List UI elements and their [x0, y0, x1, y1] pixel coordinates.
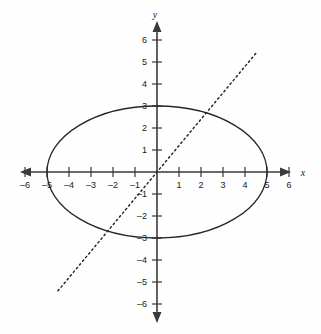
- y-axis-label: y: [152, 9, 158, 20]
- y-tick-label: 4: [142, 79, 147, 89]
- y-tick-label: –2: [137, 211, 147, 221]
- y-axis-bottom-arrow-icon: [153, 312, 162, 323]
- y-tick-label: –4: [137, 255, 147, 265]
- x-tick-label: 1: [176, 180, 181, 190]
- x-axis-label: x: [300, 167, 306, 178]
- x-tick-label: –4: [64, 180, 74, 190]
- x-tick-label: –3: [86, 180, 96, 190]
- y-tick-label: –5: [137, 277, 147, 287]
- y-tick-label: 5: [142, 57, 147, 67]
- x-tick-label: 4: [242, 180, 247, 190]
- x-tick-label: 3: [220, 180, 225, 190]
- y-tick-label: 2: [142, 123, 147, 133]
- coordinate-graph-figure: –6 –5 –4 –3 –2 –1 1 2 3 4 5 6 6 5 4 3 2 …: [0, 0, 321, 334]
- x-tick-label: –6: [20, 180, 30, 190]
- x-axis-tick-labels: –6 –5 –4 –3 –2 –1 1 2 3 4 5 6: [20, 180, 292, 190]
- x-axis: [20, 168, 291, 177]
- y-tick-label: –6: [137, 299, 147, 309]
- y-axis-top-arrow-icon: [153, 21, 162, 32]
- x-tick-label: 6: [286, 180, 291, 190]
- x-tick-label: 2: [198, 180, 203, 190]
- x-tick-label: –2: [108, 180, 118, 190]
- y-tick-label: 6: [142, 35, 147, 45]
- y-tick-label: 1: [142, 145, 147, 155]
- plot-canvas: –6 –5 –4 –3 –2 –1 1 2 3 4 5 6 6 5 4 3 2 …: [0, 0, 321, 334]
